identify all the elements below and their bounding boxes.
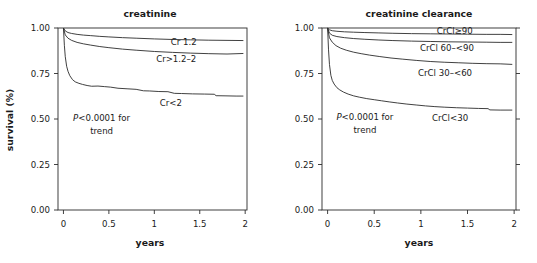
x-tick-label: 2 xyxy=(511,219,516,229)
creatinine-clearance-plot-svg: creatinine clearance years 0.000.250.500… xyxy=(268,0,537,263)
survival-curve-figure: creatinine survival (%) years 0.000.250.… xyxy=(0,0,537,263)
curve-label-1: Cr>1.2–2 xyxy=(156,54,196,64)
survival-curve-1 xyxy=(328,28,513,42)
panel-title-creatinine: creatinine xyxy=(123,8,176,19)
p-value-annotation-line1: P<0.0001 for xyxy=(336,112,393,122)
x-tick-label: 0.5 xyxy=(367,219,381,229)
curve-label-2: Cr<2 xyxy=(160,98,182,108)
x-tick-label: 1.5 xyxy=(461,219,475,229)
y-tick-label: 0.75 xyxy=(31,69,50,79)
survival-curve-0 xyxy=(328,28,513,35)
panel-creatinine: creatinine survival (%) years 0.000.250.… xyxy=(0,0,268,263)
curve-label-0: Cr 1.2 xyxy=(171,37,197,47)
x-tick-label: 2 xyxy=(242,219,247,229)
y-axis-title: survival (%) xyxy=(4,89,15,152)
x-tick-label: 0.5 xyxy=(102,219,116,229)
survival-curve-2 xyxy=(63,28,243,96)
p-value-annotation-line2: trend xyxy=(90,126,113,136)
survival-curve-1 xyxy=(63,28,243,54)
plot-area-creatinine-clearance: 0.000.250.500.751.0000.511.52CrCl≥90CrCl… xyxy=(295,23,520,229)
y-axis-title-group: survival (%) xyxy=(4,89,15,152)
y-tick-label: 0.25 xyxy=(295,160,314,170)
y-tick-label: 0.00 xyxy=(295,205,314,215)
p-value-text: <0.0001 for xyxy=(342,112,394,122)
x-tick-label: 0 xyxy=(325,219,330,229)
x-axis-title: years xyxy=(136,237,165,248)
x-tick-label: 1 xyxy=(152,219,157,229)
p-value-text: <0.0001 for xyxy=(78,113,130,123)
panel-creatinine-clearance: creatinine clearance years 0.000.250.500… xyxy=(268,0,537,263)
creatinine-plot-svg: creatinine survival (%) years 0.000.250.… xyxy=(0,0,268,263)
y-tick-label: 0.25 xyxy=(31,160,50,170)
curve-label-2: CrCl 30–<60 xyxy=(418,68,472,78)
x-axis-title: years xyxy=(405,237,434,248)
y-tick-label: 1.00 xyxy=(31,23,50,33)
y-tick-label: 1.00 xyxy=(295,23,314,33)
x-tick-label: 0 xyxy=(61,219,66,229)
y-tick-label: 0.00 xyxy=(31,205,50,215)
curve-label-1: CrCl 60–<90 xyxy=(420,43,474,53)
plot-area-creatinine: 0.000.250.500.751.0000.511.52Cr 1.2Cr>1.… xyxy=(31,23,248,229)
p-value-annotation-line2: trend xyxy=(353,125,376,135)
curve-label-0: CrCl≥90 xyxy=(437,26,473,36)
survival-curve-0 xyxy=(63,28,243,41)
y-tick-label: 0.75 xyxy=(295,69,314,79)
p-value-annotation-line1: P<0.0001 for xyxy=(73,113,130,123)
x-tick-label: 1 xyxy=(418,219,423,229)
curve-label-3: CrCl<30 xyxy=(432,113,468,123)
y-tick-label: 0.50 xyxy=(295,114,314,124)
y-tick-label: 0.50 xyxy=(31,114,50,124)
panel-title-creatinine-clearance: creatinine clearance xyxy=(366,8,473,19)
x-tick-label: 1.5 xyxy=(193,219,207,229)
